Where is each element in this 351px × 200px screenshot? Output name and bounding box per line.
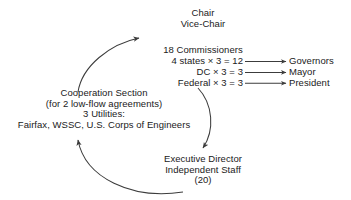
- chair-label: Chair: [181, 8, 226, 19]
- cooperation-section-block: Cooperation Section (for 2 low-flow agre…: [18, 88, 190, 130]
- chair-block: Chair Vice-Chair: [181, 8, 226, 29]
- executive-director-block: Executive Director Independent Staff (20…: [164, 154, 242, 186]
- commissioners-row-states: 4 states × 3 = 12: [171, 56, 243, 67]
- commissioners-row-dc: DC × 3 = 3: [197, 67, 243, 78]
- cooperation-section-title: Cooperation Section: [18, 88, 190, 99]
- edge-cooperation-to-commissioners: [78, 38, 139, 92]
- vice-chair-label: Vice-Chair: [181, 19, 226, 30]
- cooperation-section-utilities-list: Fairfax, WSSC, U.S. Corps of Engineers: [18, 120, 190, 131]
- commissioners-row-federal: Federal × 3 = 3: [178, 78, 243, 89]
- commissioners-heading: 18 Commissioners: [163, 45, 242, 56]
- staff-count-label: (20): [164, 175, 242, 186]
- edge-commissioners-to-executive: [198, 88, 211, 148]
- appointer-governors: Governors: [289, 56, 334, 67]
- executive-director-label: Executive Director: [164, 154, 242, 165]
- appointer-president: President: [289, 78, 330, 89]
- appointer-mayor: Mayor: [289, 67, 316, 78]
- organization-diagram: Chair Vice-Chair 18 Commissioners 4 stat…: [0, 0, 351, 200]
